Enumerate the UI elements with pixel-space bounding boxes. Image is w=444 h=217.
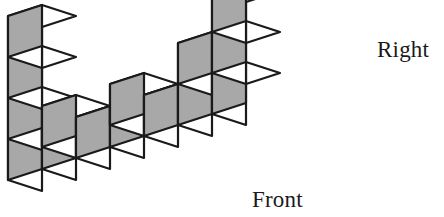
label-right: Right [377, 37, 429, 63]
isometric-cube-figure [0, 0, 444, 217]
label-front: Front [252, 187, 303, 213]
cube-group [8, 0, 280, 191]
figure-container: Right Front [0, 0, 444, 217]
